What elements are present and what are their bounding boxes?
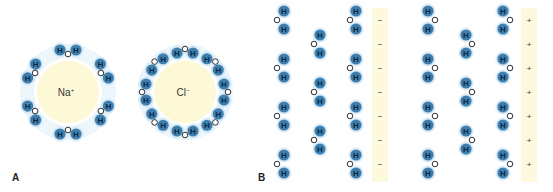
hydrogen-label: H [105,102,111,111]
hydrogen-label: H [143,80,149,89]
water-molecule: HH [496,148,513,181]
hydrogen-label: H [221,96,227,105]
hydrogen-label: H [25,102,31,111]
hydrogen-label: H [105,74,111,83]
plus-charge: + [527,88,532,97]
sodium-ion-hydration-shell: Na+HHHHHHHHHHHH [20,43,116,142]
hydrogen-label: H [143,96,149,105]
hydrogen-label: H [160,55,166,64]
hydrogen-label: H [425,55,431,64]
minus-charge: − [378,136,383,145]
hydrogen-label: H [353,73,359,82]
water-molecule: HH [311,124,327,157]
positive-plate: +++++++ [521,8,537,182]
hydrogen-label: H [33,60,39,69]
hydrogen-label: H [25,74,31,83]
figure-hydration-diagram: Na+HHHHHHHHHHHHCl−HHHHHHHHHHHHHHHH−−−−−−… [0,0,553,192]
water-molecule: HH [459,124,475,157]
hydrogen-label: H [425,25,431,34]
oxygen-atom [432,161,438,167]
oxygen-atom [152,59,158,65]
hydrogen-label: H [500,121,506,130]
oxygen-atom [311,137,317,143]
hydrogen-label: H [500,169,506,178]
panel-label-a: A [12,172,19,183]
hydrogen-label: H [281,169,287,178]
hydrogen-label: H [463,31,469,40]
hydrogen-label: H [281,25,287,34]
oxygen-atom [469,137,475,143]
oxygen-atom [274,65,280,71]
hydrogen-label: H [463,49,469,58]
oxygen-atom [311,41,317,47]
plus-charge: + [527,136,532,145]
plus-charge: + [527,112,532,121]
hydrogen-label: H [353,7,359,16]
hydrogen-label: H [500,25,506,34]
hydrogen-label: H [97,60,103,69]
hydrogen-label: H [425,169,431,178]
oxygen-atom [225,89,231,95]
hydrogen-label: H [317,49,323,58]
oxygen-atom [139,89,145,95]
plus-charge: + [527,64,532,73]
hydrogen-label: H [190,127,196,136]
hydrogen-label: H [174,127,180,136]
minus-charge: − [378,160,383,169]
oxygen-atom [152,120,158,126]
hydrogen-label: H [33,116,39,125]
panel-label-b: B [258,172,265,183]
hydrogen-label: H [463,127,469,136]
hydrogen-label: H [281,151,287,160]
hydrogen-label: H [190,49,196,58]
oxygen-atom [469,41,475,47]
minus-charge: − [378,16,383,25]
hydrogen-label: H [500,55,506,64]
oxygen-atom [507,113,513,119]
water-molecule: HH [311,76,327,109]
water-molecule: HH [459,28,475,61]
oxygen-atom [274,113,280,119]
oxygen-atom [274,17,280,23]
water-molecule: HH [347,52,363,85]
oxygen-atom [347,161,353,167]
hydrogen-label: H [425,151,431,160]
oxygen-atom [311,89,317,95]
oxygen-atom [469,89,475,95]
hydrogen-label: H [204,55,210,64]
hydrogen-label: H [500,7,506,16]
hydrogen-label: H [317,97,323,106]
water-molecule: HH [421,148,438,181]
water-molecule: HH [496,4,513,37]
water-molecule: HH [496,52,513,85]
water-molecule: HH [347,4,363,37]
hydrogen-label: H [57,46,63,55]
water-molecule: HH [421,52,438,85]
oxygen-atom [507,161,513,167]
water-molecule: HH [347,148,363,181]
water-molecule: HH [274,148,291,181]
oxygen-atom [65,127,71,133]
hydrogen-label: H [500,103,506,112]
oxygen-atom [274,161,280,167]
hydrogen-label: H [73,130,79,139]
hydrogen-label: H [425,73,431,82]
hydrogen-label: H [160,121,166,130]
oxygen-atom [213,120,219,126]
water-molecule: HH [347,100,363,133]
oxygen-atom [98,70,104,76]
hydrogen-label: H [317,31,323,40]
minus-charge: − [378,40,383,49]
oxygen-atom [65,51,71,57]
hydrogen-label: H [281,103,287,112]
hydrogen-label: H [317,145,323,154]
water-molecule: HH [496,100,513,133]
plus-charge: + [527,40,532,49]
oxygen-atom [432,65,438,71]
oxygen-atom [432,113,438,119]
hydrogen-label: H [463,79,469,88]
water-molecule: HH [421,100,438,133]
hydrogen-label: H [215,66,221,75]
hydrogen-label: H [281,73,287,82]
minus-charge: − [378,64,383,73]
